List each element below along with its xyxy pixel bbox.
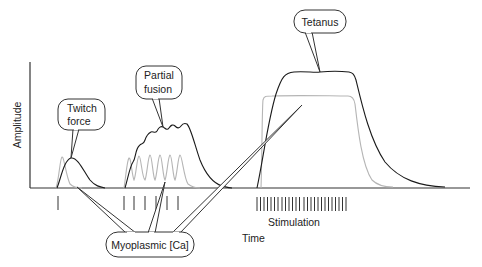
calcium-callout: Myoplasmic [Ca] (106, 232, 194, 257)
twitch-traces (56, 157, 105, 188)
twitch-force-callout: Twitch force (58, 99, 105, 158)
tetanus-stimulus-ticks (257, 197, 346, 211)
stimulation-label: Stimulation (268, 216, 320, 228)
pointer-to-partial-calcium (148, 182, 165, 233)
tetanus-force-trace (257, 71, 445, 188)
y-axis-label: Amplitude (11, 102, 23, 149)
axes: Amplitude Time (11, 62, 470, 244)
partial-fusion-calcium-trace (124, 155, 200, 188)
twitch-callout-line1: Twitch (67, 102, 97, 114)
partial-fusion-force-trace (125, 123, 232, 188)
tetanus-traces (257, 71, 445, 188)
partial-fusion-traces (124, 123, 232, 188)
pointer-to-twitch-calcium (77, 187, 136, 233)
partial-callout-pointer (152, 98, 163, 127)
twitch-callout-line2: force (67, 115, 91, 127)
twitch-callout-pointer (71, 129, 79, 158)
x-axis-label: Time (242, 232, 265, 244)
tetanus-calcium-trace (261, 96, 393, 188)
tetanus-callout: Tetanus (294, 10, 346, 72)
muscle-contraction-diagram: Amplitude Time (0, 0, 482, 267)
tetanus-callout-label: Tetanus (302, 16, 339, 28)
calcium-callout-pointers (77, 105, 302, 233)
partial-fusion-callout: Partial fusion (136, 66, 182, 127)
stimulus-ticks: Stimulation (58, 196, 346, 228)
calcium-callout-label: Myoplasmic [Ca] (111, 239, 189, 251)
tetanus-callout-pointer (305, 32, 320, 72)
partial-fusion-stimulus-ticks (124, 196, 178, 210)
pointer-to-tetanus-calcium (172, 105, 302, 233)
partial-callout-line1: Partial (144, 69, 174, 81)
partial-callout-line2: fusion (144, 83, 172, 95)
